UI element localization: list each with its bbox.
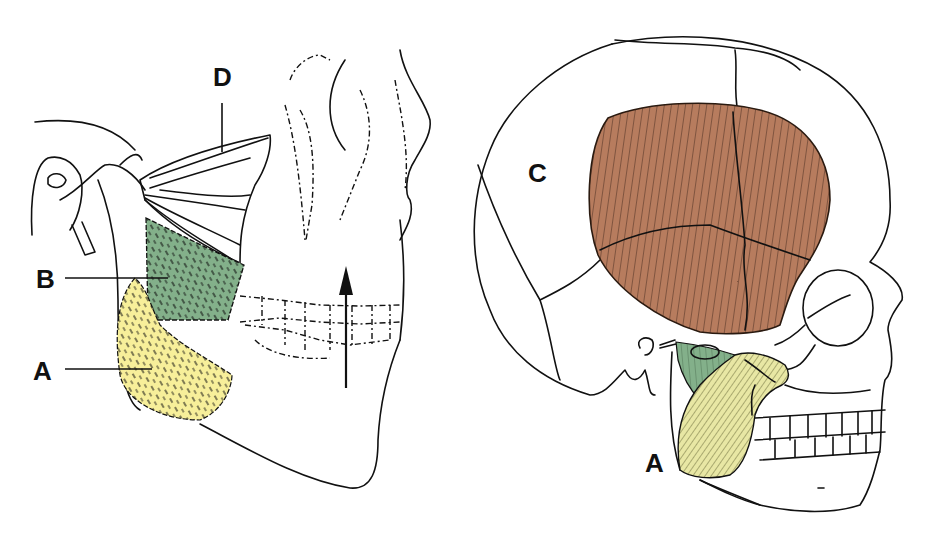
- teeth-left: [240, 296, 400, 358]
- label-d: D: [213, 62, 232, 92]
- sagittal-suture: [615, 40, 800, 70]
- styloid-right: [660, 340, 676, 348]
- zygoma-outline: [300, 110, 313, 240]
- coronal-suture: [735, 50, 738, 112]
- label-a-right: A: [645, 448, 664, 478]
- medial-pterygoid-muscle: [146, 218, 244, 320]
- face-profile-outline: [400, 50, 430, 240]
- right-panel-skull: C A: [474, 37, 902, 512]
- label-a-left: A: [33, 356, 52, 386]
- maxilla-right: [785, 385, 870, 393]
- zygomatic-arch-outline: [35, 121, 135, 150]
- squamosal-suture: [540, 260, 600, 300]
- nasal-outline: [290, 55, 330, 80]
- mandible-lower-border: [200, 340, 400, 488]
- elevation-arrow: [339, 266, 353, 388]
- label-b: B: [36, 264, 55, 294]
- maxilla-inner-outline: [340, 90, 369, 220]
- orbit-suture: [808, 295, 850, 318]
- ear-process-right: [639, 338, 654, 355]
- nose-bridge-outline: [395, 80, 406, 190]
- articular-eminence-outline: [120, 155, 142, 165]
- teeth-right: [755, 410, 885, 460]
- ear-canal-outline: [48, 174, 66, 188]
- left-panel-mandible: D B A: [32, 50, 431, 488]
- anatomy-diagram: D B A: [0, 0, 930, 540]
- styloid-process-outline: [72, 222, 95, 255]
- temporalis-muscle: [589, 103, 830, 333]
- temporal-bone-outline: [32, 157, 82, 235]
- label-c: C: [528, 158, 547, 188]
- orbit-right: [803, 270, 873, 346]
- maxilla-outline: [285, 105, 305, 240]
- orbit-outline: [330, 60, 345, 150]
- lambdoid-suture: [478, 165, 560, 380]
